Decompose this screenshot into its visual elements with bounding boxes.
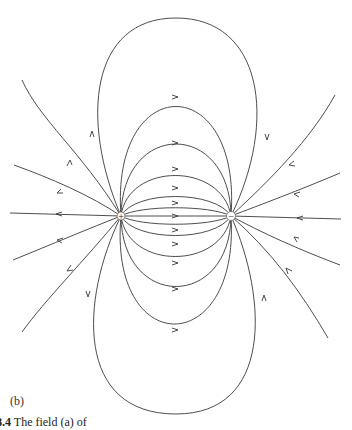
arrow-icon <box>57 189 63 193</box>
field-line-upper-4 <box>121 144 231 216</box>
arrow-icon <box>67 160 72 166</box>
field-line-left-up-2 <box>14 165 121 216</box>
arrow-right-icon <box>172 201 178 205</box>
direction-arrows <box>56 95 303 332</box>
field-line-right-axis <box>231 216 341 219</box>
arrow-right-icon <box>172 186 178 190</box>
field-line-lower-5 <box>120 216 231 324</box>
field-lines <box>10 18 341 414</box>
arrow-down-icon <box>265 134 269 140</box>
arrow-right-icon <box>172 242 178 246</box>
arrow-up-icon <box>90 131 94 137</box>
positive-charge: + <box>117 211 125 222</box>
field-line-right-up-1 <box>231 95 335 216</box>
field-line-lower-2 <box>121 216 231 236</box>
field-line-lower-1 <box>121 216 231 224</box>
minus-icon: − <box>228 211 234 222</box>
arrow-right-icon <box>172 261 178 265</box>
arrow-right-icon <box>172 328 178 332</box>
arrow-right-icon <box>172 95 178 99</box>
field-line-lower-4 <box>121 216 231 287</box>
arrow-right-icon <box>172 228 178 232</box>
arrow-icon <box>67 265 73 271</box>
arrow-right-icon <box>172 167 178 171</box>
arrow-icon <box>286 268 292 274</box>
arrow-right-icon <box>172 287 178 291</box>
field-line-lower-3 <box>121 216 231 257</box>
field-line-upper-1 <box>121 208 231 216</box>
field-line-upper-5 <box>120 107 231 217</box>
caption-number: 8.4 <box>0 415 11 429</box>
arrow-down-icon <box>86 291 90 297</box>
field-line-left-axis <box>10 213 121 216</box>
field-line-upper-outer <box>98 18 257 216</box>
field-line-left-up-1 <box>22 80 121 216</box>
field-line-left-down-1 <box>13 216 121 260</box>
field-line-right-down-1 <box>231 216 340 265</box>
caption-text: The field (a) of <box>14 415 87 429</box>
arrow-up-icon <box>262 295 266 301</box>
plus-icon: + <box>118 211 124 222</box>
arrow-icon <box>294 237 299 242</box>
arrow-icon <box>289 161 295 166</box>
field-line-right-down-2 <box>231 216 328 338</box>
figure-caption: 8.4 The field (a) of <box>0 415 87 430</box>
arrow-icon <box>294 192 300 197</box>
field-line-left-down-2 <box>22 216 121 332</box>
field-line-right-up-2 <box>231 173 340 216</box>
field-line-upper-2 <box>121 197 231 217</box>
panel-label: (b) <box>10 394 24 409</box>
negative-charge: − <box>227 211 236 222</box>
field-line-upper-3 <box>121 176 231 217</box>
